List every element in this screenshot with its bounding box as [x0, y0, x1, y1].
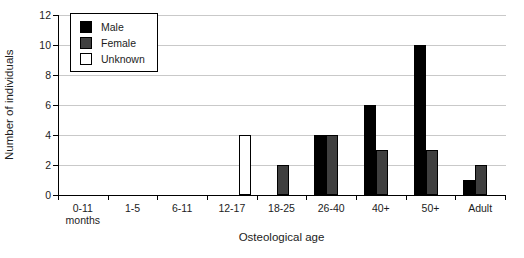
gridline-y-4 — [59, 135, 506, 136]
legend: MaleFemaleUnknown — [70, 13, 158, 72]
bar-male-adult — [463, 180, 475, 195]
unknown-swatch-icon — [80, 53, 92, 65]
bar-chart: Number of individuals MaleFemaleUnknown … — [0, 0, 524, 258]
y-tick-label: 2 — [27, 159, 51, 171]
x-axis-title: Osteological age — [58, 231, 505, 243]
x-tick-mark — [306, 196, 307, 200]
y-tick-label: 4 — [27, 129, 51, 141]
x-tick-mark — [455, 196, 456, 200]
y-tick-mark — [53, 15, 58, 16]
x-tick-label-12-17: 12-17 — [207, 203, 257, 215]
x-tick-label-0-11-months: 0-11 months — [58, 203, 108, 226]
legend-label-unknown: Unknown — [101, 53, 145, 65]
y-tick-mark — [53, 75, 58, 76]
y-tick-mark — [53, 165, 58, 166]
x-tick-mark — [505, 196, 506, 200]
x-tick-mark — [207, 196, 208, 200]
legend-item-female: Female — [80, 35, 145, 50]
bar-female-50 — [426, 150, 438, 195]
y-tick-label: 6 — [27, 99, 51, 111]
bar-male-40 — [364, 105, 376, 195]
female-swatch-icon — [80, 37, 92, 49]
legend-item-male: Male — [80, 19, 145, 34]
x-tick-mark — [257, 196, 258, 200]
x-tick-mark — [157, 196, 158, 200]
x-tick-label-50: 50+ — [406, 203, 456, 215]
y-tick-label: 12 — [27, 9, 51, 21]
bar-male-50 — [414, 45, 426, 195]
x-tick-mark — [58, 196, 59, 200]
bar-unknown-12-17 — [239, 135, 251, 195]
y-tick-label: 10 — [27, 39, 51, 51]
y-tick-mark — [53, 135, 58, 136]
gridline-y-8 — [59, 75, 506, 76]
legend-label-female: Female — [101, 37, 136, 49]
y-tick-label: 8 — [27, 69, 51, 81]
x-tick-mark — [108, 196, 109, 200]
x-tick-label-6-11: 6-11 — [157, 203, 207, 215]
gridline-y-6 — [59, 105, 506, 106]
x-tick-label-1-5: 1-5 — [108, 203, 158, 215]
y-tick-mark — [53, 45, 58, 46]
male-swatch-icon — [80, 21, 92, 33]
legend-item-unknown: Unknown — [80, 51, 145, 66]
y-axis-title: Number of individuals — [3, 15, 15, 195]
x-tick-mark — [356, 196, 357, 200]
x-tick-label-adult: Adult — [455, 203, 505, 215]
bar-male-26-40 — [314, 135, 326, 195]
x-tick-label-26-40: 26-40 — [306, 203, 356, 215]
y-tick-label: 0 — [27, 189, 51, 201]
bar-female-adult — [475, 165, 487, 195]
x-tick-mark — [406, 196, 407, 200]
bar-female-40 — [376, 150, 388, 195]
bar-female-18-25 — [277, 165, 289, 195]
bar-female-26-40 — [326, 135, 338, 195]
y-tick-mark — [53, 105, 58, 106]
x-tick-label-40: 40+ — [356, 203, 406, 215]
x-tick-label-18-25: 18-25 — [257, 203, 307, 215]
legend-label-male: Male — [101, 21, 124, 33]
